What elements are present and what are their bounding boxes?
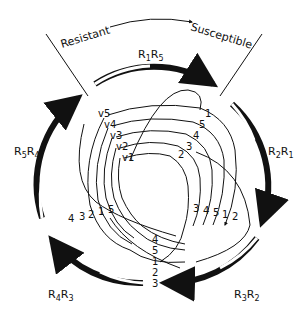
resistant-label: Resistant — [59, 23, 112, 50]
label-l-5: 5 — [108, 204, 114, 215]
label-b-4: 4 — [152, 234, 158, 245]
label-b-1: 1 — [152, 256, 158, 267]
label-r-5: 5 — [213, 207, 219, 218]
label-tr-3: 3 — [186, 141, 192, 152]
label-b-3: 3 — [152, 278, 158, 289]
susceptible-label: Susceptible — [189, 20, 254, 51]
label-tr-4: 4 — [193, 130, 199, 141]
arrow-r2r1 — [232, 104, 268, 222]
label-b-5: 5 — [152, 245, 158, 256]
label-l-1: 1 — [98, 206, 104, 217]
label-r4r3: R4R3 — [48, 288, 74, 303]
label-r5r4: R5R4 — [14, 145, 40, 160]
label-r-1: 1 — [222, 209, 228, 220]
arrow-r5r4-hollow — [40, 170, 44, 218]
arrow-r5r4 — [37, 98, 78, 218]
label-r2r1: R2R1 — [268, 145, 294, 160]
label-v5: v5 — [98, 108, 110, 119]
label-v3: v3 — [110, 130, 122, 141]
gene-for-gene-cycle-diagram: Resistant Susceptible R1R5 R2R1 R3R2 R4R… — [0, 0, 307, 326]
label-l-3: 3 — [79, 211, 85, 222]
label-l-2: 2 — [88, 209, 94, 220]
label-v4: v4 — [104, 119, 116, 130]
label-b-2: 2 — [152, 267, 158, 278]
label-tr-1: 1 — [205, 108, 211, 119]
label-r3r2: R3R2 — [234, 288, 260, 303]
label-tr-5: 5 — [199, 119, 205, 130]
label-r-3: 3 — [193, 203, 199, 214]
label-r-2: 2 — [232, 211, 238, 222]
label-r1r5: R1R5 — [138, 48, 164, 63]
label-v2: v2 — [116, 141, 128, 152]
arrow-r4r3 — [52, 240, 143, 283]
label-r-4: 4 — [203, 205, 209, 216]
label-v1: v1 — [122, 152, 134, 163]
inner-labels-top-left: v5 v4 v3 v2 v1 — [98, 108, 134, 163]
inner-labels-bottom: 4 5 1 2 3 — [152, 234, 158, 289]
resistant-to-susceptible-arrow — [110, 19, 192, 27]
label-tr-2: 2 — [178, 149, 184, 160]
label-l-4: 4 — [68, 213, 74, 224]
arrow-r3r2 — [165, 238, 257, 283]
inner-labels-left: 4 3 2 1 5 — [68, 204, 114, 224]
